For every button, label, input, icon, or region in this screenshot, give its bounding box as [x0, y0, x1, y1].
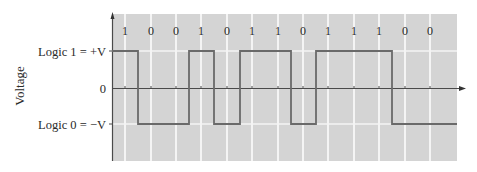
bit-label: 0 [427, 24, 433, 38]
label-logic-0: Logic 0 = −V [38, 118, 106, 132]
bit-label: 1 [198, 24, 204, 38]
bit-label: 1 [376, 24, 382, 38]
bit-label: 1 [122, 24, 128, 38]
bit-label: 0 [148, 24, 154, 38]
bit-label: 0 [224, 24, 230, 38]
bit-label: 1 [351, 24, 357, 38]
bit-label: 0 [173, 24, 179, 38]
bit-label: 1 [275, 24, 281, 38]
signal-diagram: 1 0 0 1 0 1 1 0 1 1 1 0 0 Logic 1 = +V 0… [0, 0, 477, 172]
bit-label: 1 [325, 24, 331, 38]
bit-label: 0 [300, 24, 306, 38]
bit-label: 1 [249, 24, 255, 38]
label-logic-1: Logic 1 = +V [38, 45, 106, 59]
y-axis-title: Voltage [12, 66, 27, 106]
bit-label: 0 [402, 24, 408, 38]
x-axis-arrow-icon [459, 86, 466, 91]
label-zero: 0 [100, 82, 106, 96]
